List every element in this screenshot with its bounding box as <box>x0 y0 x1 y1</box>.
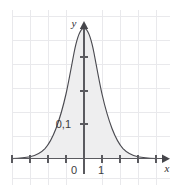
y-axis-arrow-icon <box>80 21 88 29</box>
x-tick-label-1: 1 <box>98 164 104 176</box>
y-axis-label: y <box>71 17 77 29</box>
x-axis-label: x <box>164 162 170 174</box>
y-tick-label-0-1: 0,1 <box>56 118 71 130</box>
chart-figure: 0,1 0 1 y x <box>0 0 176 191</box>
normal-distribution-chart: 0,1 0 1 y x <box>0 0 176 191</box>
x-tick-label-0: 0 <box>71 164 77 176</box>
